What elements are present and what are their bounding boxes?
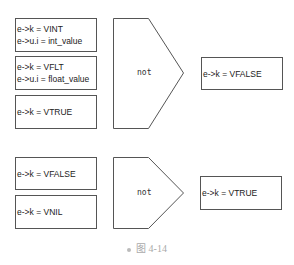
input-box-vfalse: e->k = VFALSE xyxy=(15,157,97,190)
output-box-vfalse: e->k = VFALSE xyxy=(201,57,283,90)
input-box-vnil: e->k = VNIL xyxy=(15,195,97,229)
box-line: e->k = VFALSE xyxy=(17,168,96,180)
box-line: e->k = VTRUE xyxy=(202,187,281,199)
box-line: e->k = VNIL xyxy=(17,206,96,218)
caption-text: 图 4-14 xyxy=(136,243,167,254)
box-line: e->k = VFALSE xyxy=(203,68,282,80)
output-box-vtrue: e->k = VTRUE xyxy=(200,176,282,210)
bullet-icon xyxy=(127,248,131,252)
operator-label: not xyxy=(137,68,151,77)
diagram-canvas: e->k = VINT e->u.i = int_value e->k = VF… xyxy=(0,0,294,265)
figure-caption: 图 4-14 xyxy=(0,240,294,255)
operator-label: not xyxy=(137,188,151,197)
